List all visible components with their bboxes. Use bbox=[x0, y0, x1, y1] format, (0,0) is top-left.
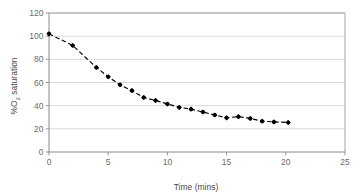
data-point-marker-core bbox=[177, 105, 181, 109]
chart-background bbox=[0, 0, 360, 195]
x-axis-title: Time (mins) bbox=[174, 182, 219, 192]
y-tick-label: 100 bbox=[29, 31, 43, 41]
x-tick-label: 5 bbox=[106, 157, 111, 167]
x-tick-label: 15 bbox=[222, 157, 232, 167]
data-point-marker-core bbox=[94, 65, 98, 69]
data-point-marker-core bbox=[213, 113, 217, 117]
data-point-marker-core bbox=[286, 120, 290, 124]
data-point-marker-core bbox=[118, 83, 122, 87]
y-axis-title-suffix: saturation bbox=[9, 57, 19, 97]
y-tick-label: 0 bbox=[39, 147, 44, 157]
y-axis-title: %O2 saturation bbox=[9, 57, 21, 114]
data-point-marker-core bbox=[71, 43, 75, 47]
data-point-marker-core bbox=[142, 96, 146, 100]
data-point-marker-core bbox=[106, 75, 110, 79]
y-tick-label: 40 bbox=[34, 101, 44, 111]
chart-container: 020406080100120 0510152025 Time (mins) %… bbox=[0, 0, 360, 195]
y-axis-title-prefix: %O bbox=[9, 100, 19, 115]
data-point-marker-core bbox=[225, 116, 229, 120]
data-point-marker-core bbox=[165, 102, 169, 106]
data-point-marker-core bbox=[201, 110, 205, 114]
data-point-marker-core bbox=[154, 98, 158, 102]
data-point-marker-core bbox=[189, 107, 193, 111]
x-tick-label: 0 bbox=[47, 157, 52, 167]
y-tick-label: 20 bbox=[34, 124, 44, 134]
y-tick-label: 80 bbox=[34, 54, 44, 64]
oxygen-saturation-scatter-chart: 020406080100120 0510152025 Time (mins) %… bbox=[0, 0, 360, 195]
y-tick-label: 60 bbox=[34, 78, 44, 88]
data-point-marker-core bbox=[260, 119, 264, 123]
y-tick-label: 120 bbox=[29, 8, 43, 18]
data-point-marker-core bbox=[248, 116, 252, 120]
data-point-marker-core bbox=[236, 115, 240, 119]
data-point-marker-core bbox=[47, 32, 51, 36]
x-tick-label: 10 bbox=[163, 157, 173, 167]
x-tick-label: 20 bbox=[281, 157, 291, 167]
data-point-marker-core bbox=[130, 89, 134, 93]
svg-text:%O2 saturation: %O2 saturation bbox=[9, 57, 21, 114]
x-tick-label: 25 bbox=[340, 157, 350, 167]
data-point-marker-core bbox=[272, 120, 276, 124]
